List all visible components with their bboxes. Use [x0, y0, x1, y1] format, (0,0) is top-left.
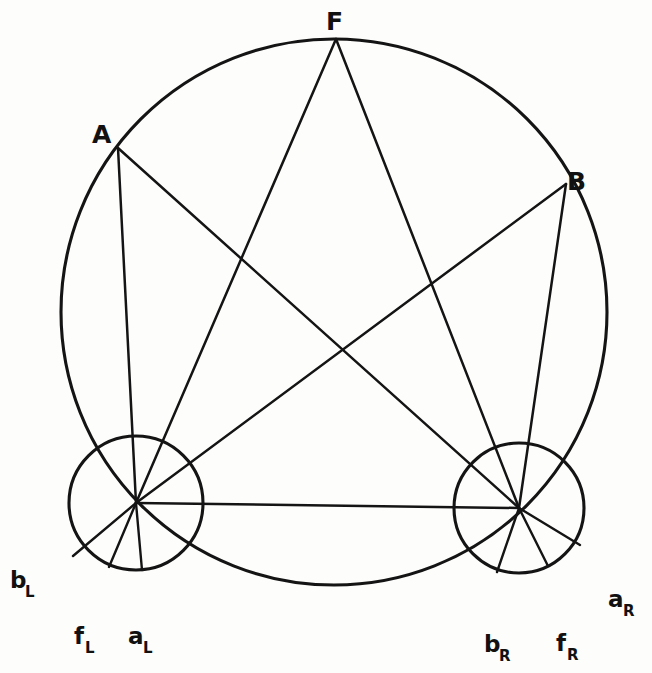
label-bR-base: b — [484, 631, 500, 657]
chord-B-to-left-center — [136, 184, 566, 503]
label-fL-base: f — [74, 623, 85, 649]
label-point-A: A — [92, 120, 112, 149]
diagram-canvas: F A B b L f L a L b R f R a R — [0, 0, 652, 673]
chord-F-to-right-center — [336, 39, 519, 508]
label-point-F: F — [326, 7, 343, 36]
spoke-left-to-fL — [109, 503, 136, 567]
label-aR-base: a — [608, 586, 624, 612]
geometry-figure: F A B b L f L a L b R f R a R — [0, 0, 652, 673]
label-aL-base: a — [128, 623, 144, 649]
spoke-left-to-aL — [136, 503, 142, 570]
spoke-group-left — [73, 503, 142, 570]
chord-group — [118, 39, 566, 508]
label-point-bR: b R — [484, 631, 511, 665]
label-fR-subscript: R — [567, 646, 579, 664]
spoke-left-to-bL — [73, 503, 136, 556]
label-point-B: B — [567, 167, 586, 196]
label-fL-subscript: L — [85, 639, 95, 657]
label-point-bL: b L — [10, 567, 35, 601]
chord-A-to-left-center — [118, 148, 136, 503]
interocular-axis — [136, 503, 519, 508]
label-point-fR: f R — [556, 630, 579, 664]
label-aR-subscript: R — [623, 602, 635, 620]
label-point-fL: f L — [74, 623, 95, 657]
chord-B-to-right-center — [519, 184, 566, 508]
label-bR-subscript: R — [499, 647, 511, 665]
label-bL-subscript: L — [25, 583, 35, 601]
label-aL-subscript: L — [143, 639, 153, 657]
spoke-group-right — [497, 508, 580, 572]
label-bL-base: b — [10, 567, 26, 593]
chord-A-to-right-center — [118, 148, 519, 508]
label-point-aR: a R — [608, 586, 635, 620]
label-fR-base: f — [556, 630, 567, 656]
chord-F-to-left-center — [136, 39, 336, 503]
label-point-aL: a L — [128, 623, 153, 657]
